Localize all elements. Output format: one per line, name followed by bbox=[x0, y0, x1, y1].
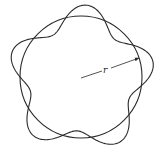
radius-label: r bbox=[103, 65, 108, 75]
radius-line-left bbox=[81, 71, 102, 78]
reference-circle bbox=[20, 16, 142, 138]
wavy-perturbed-curve bbox=[11, 5, 153, 144]
diagram-canvas: r bbox=[0, 0, 164, 155]
radius-arrow bbox=[111, 58, 139, 68]
